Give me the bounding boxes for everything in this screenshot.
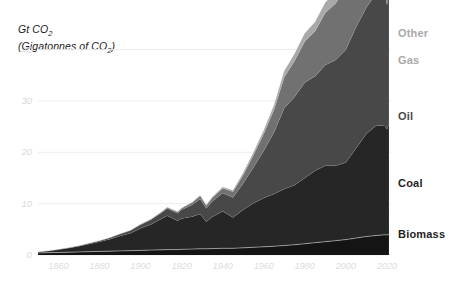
x-tick-1940: 1940 — [203, 261, 243, 271]
x-tick-1880: 1880 — [80, 261, 120, 271]
y-tick-0: 0 — [6, 249, 32, 260]
plot-area — [0, 0, 458, 288]
x-tick-2020: 2020 — [367, 261, 407, 271]
y-tick-10: 10 — [6, 198, 32, 209]
x-tick-1900: 1900 — [121, 261, 161, 271]
series-label-coal: Coal — [398, 177, 423, 189]
series-label-biomass: Biomass — [398, 228, 445, 240]
x-tick-1960: 1960 — [244, 261, 284, 271]
y-tick-40: 40 — [6, 44, 32, 55]
stacked-areas — [38, 0, 389, 255]
x-tick-2000: 2000 — [326, 261, 366, 271]
co2-emissions-area-chart: Gt CO2 (Gigatonnes of CO2) 010203040 186… — [0, 0, 458, 288]
series-label-gas: Gas — [398, 54, 419, 66]
y-tick-30: 30 — [6, 95, 32, 106]
series-label-other: Other — [398, 27, 428, 39]
x-tick-1920: 1920 — [162, 261, 202, 271]
x-tick-1980: 1980 — [285, 261, 325, 271]
series-label-oil: Oil — [398, 110, 413, 122]
x-tick-1860: 1860 — [39, 261, 79, 271]
y-tick-20: 20 — [6, 146, 32, 157]
